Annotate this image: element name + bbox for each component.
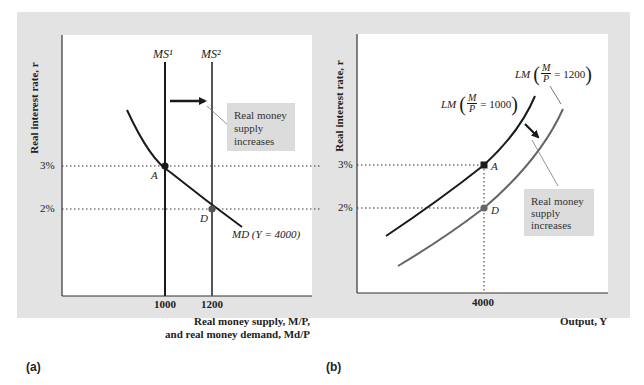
lm1-frac-den: P xyxy=(469,104,475,114)
panel-b-y-axis-label: Real interest rate, r xyxy=(333,50,345,162)
point-d-label: D xyxy=(200,212,208,224)
panel-a-callout-line1: Real money xyxy=(234,109,287,122)
panel-b-xtick-4000: 4000 xyxy=(472,296,494,308)
lm2-value: = 1200 xyxy=(554,68,585,80)
md-label: MD (Y = 4000) xyxy=(232,228,300,240)
panel-a-ytick-2pct: 2% xyxy=(40,202,55,214)
panel-b-callout-line2: supply xyxy=(531,207,584,219)
panel-a-xtick-1200: 1200 xyxy=(201,298,223,310)
panel-a-callout-text: Real money supply increases xyxy=(234,109,287,148)
point-d-marker xyxy=(208,205,215,212)
panel-a-callout-line2: supply xyxy=(234,122,287,135)
lm1-prefix: LM xyxy=(441,98,456,110)
panel-b xyxy=(322,12,630,318)
lm1-label: LM ( M P = 1000 ) xyxy=(441,93,518,114)
lm1-value: = 1000 xyxy=(480,98,511,110)
panel-b-y-axis-label-wrap: Real interest rate, r xyxy=(329,40,349,170)
panel-a-y-axis-label: Real interest rate, r xyxy=(28,52,40,164)
panel-b-callout-line1: Real money xyxy=(531,195,584,207)
ms2-label: MS² xyxy=(201,47,221,62)
point-a-marker-b xyxy=(481,162,488,169)
lm2-label: LM ( M P = 1200 ) xyxy=(515,63,592,84)
panel-a xyxy=(17,12,330,318)
lm1-paren-close: ) xyxy=(511,95,518,113)
lm2-fraction: M P xyxy=(541,63,551,84)
panel-a-xtick-1000: 1000 xyxy=(154,298,176,310)
lm2-frac-den: P xyxy=(543,74,549,84)
panel-a-x-axis-label: Real money supply, M/P, and real money d… xyxy=(165,315,310,341)
lm1-fraction: M P xyxy=(467,93,477,114)
figure xyxy=(0,0,644,385)
lm2-prefix: LM xyxy=(515,68,530,80)
lm2-paren-open: ( xyxy=(533,65,540,83)
panel-b-ytick-3pct: 3% xyxy=(338,158,353,170)
panel-a-x-axis-label-line2: and real money demand, Md/P xyxy=(165,328,310,341)
panel-a-label: (a) xyxy=(26,360,41,374)
point-a-label-b: A xyxy=(491,160,498,172)
panel-b-label: (b) xyxy=(326,360,341,374)
ms1-label: MS¹ xyxy=(153,47,173,62)
panel-b-callout-line3: increases xyxy=(531,219,584,231)
lm1-paren-open: ( xyxy=(459,95,466,113)
point-a-label: A xyxy=(151,169,158,181)
panel-a-y-axis-label-wrap: Real interest rate, r xyxy=(24,40,44,170)
panel-a-callout-line3: increases xyxy=(234,135,287,148)
panel-a-ytick-3pct: 3% xyxy=(40,159,55,171)
panel-a-x-axis-label-line1: Real money supply, M/P, xyxy=(165,315,310,328)
lm2-paren-close: ) xyxy=(585,65,592,83)
panel-b-ytick-2pct: 2% xyxy=(338,201,353,213)
point-d-label-b: D xyxy=(491,204,499,216)
panel-b-callout-text: Real money supply increases xyxy=(531,195,584,231)
panel-b-x-axis-label: Output, Y xyxy=(560,315,607,327)
point-a-marker xyxy=(161,162,168,169)
point-d-marker-b xyxy=(480,204,487,211)
